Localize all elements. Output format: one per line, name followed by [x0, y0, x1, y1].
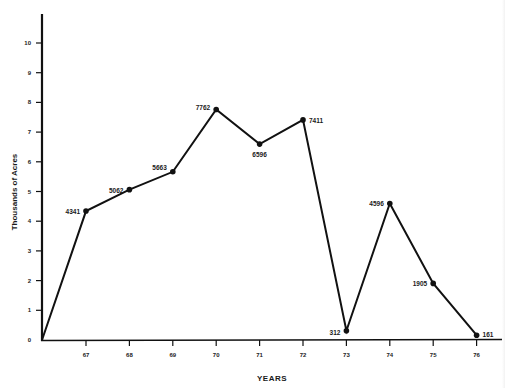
data-point — [257, 141, 263, 147]
y-tick-label: 9 — [28, 70, 32, 76]
data-point-label: 7762 — [196, 104, 211, 111]
data-labels: 43415062566377626596741131245961905161 — [66, 104, 494, 338]
data-point-label: 7411 — [309, 117, 323, 124]
x-tick-label: 67 — [83, 352, 90, 358]
y-axis-ticks: 012345678910 — [24, 40, 42, 343]
y-tick-label: 4 — [28, 218, 32, 224]
data-point — [127, 187, 133, 193]
y-tick-label: 5 — [28, 189, 32, 195]
data-point — [213, 107, 219, 113]
x-tick-label: 71 — [256, 352, 263, 358]
x-tick-label: 72 — [300, 352, 307, 358]
y-axis-title: Thousands of Acres — [10, 153, 19, 230]
line-chart: 012345678910 67686970717273747576 434150… — [0, 0, 505, 388]
y-tick-label: 3 — [28, 248, 32, 254]
data-point-label: 5663 — [152, 164, 167, 171]
data-point-label: 312 — [330, 329, 341, 336]
data-point — [430, 281, 436, 287]
data-point-label: 4341 — [66, 208, 81, 215]
data-point — [300, 117, 306, 123]
y-tick-label: 2 — [28, 278, 32, 284]
data-point-label: 1905 — [413, 280, 428, 287]
x-tick-label: 75 — [430, 352, 437, 358]
data-point — [387, 201, 393, 207]
y-tick-label: 7 — [28, 129, 32, 135]
y-tick-label: 1 — [28, 307, 32, 313]
data-point-label: 4596 — [369, 200, 384, 207]
x-tick-label: 74 — [386, 352, 393, 358]
y-tick-label: 10 — [24, 40, 31, 46]
data-point-label: 6596 — [252, 151, 267, 158]
x-tick-label: 70 — [213, 352, 220, 358]
data-point — [474, 332, 480, 338]
x-axis-ticks: 67686970717273747576 — [83, 340, 481, 358]
data-point — [83, 208, 89, 214]
x-tick-label: 73 — [343, 352, 350, 358]
data-point — [344, 328, 350, 334]
x-axis-title: YEARS — [257, 374, 287, 383]
x-tick-label: 68 — [126, 352, 133, 358]
y-tick-label: 0 — [28, 337, 32, 343]
data-point — [170, 169, 176, 175]
y-tick-label: 6 — [28, 159, 32, 165]
y-tick-label: 8 — [28, 99, 32, 105]
data-point-label: 5062 — [109, 187, 124, 194]
data-points — [83, 107, 479, 338]
x-tick-label: 76 — [473, 352, 480, 358]
x-tick-label: 69 — [169, 352, 176, 358]
data-point-label: 161 — [483, 331, 494, 338]
